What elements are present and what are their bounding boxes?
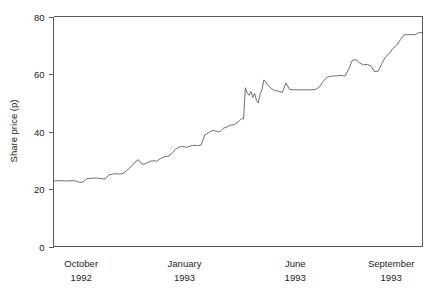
y-axis-tick-label: 80 xyxy=(34,12,45,23)
x-axis-tick-label-year: 1993 xyxy=(285,272,306,283)
y-axis-tick-label: 60 xyxy=(34,69,45,80)
x-axis-tick-label-year: 1992 xyxy=(71,272,92,283)
y-axis-title: Share price (p) xyxy=(8,100,19,163)
y-axis-tick-label: 40 xyxy=(34,127,45,138)
x-axis-tick-label-year: 1993 xyxy=(381,272,402,283)
series-group xyxy=(54,33,423,183)
y-axis-tick-label: 0 xyxy=(39,242,44,253)
x-axis-tick-label-month: September xyxy=(368,258,414,269)
x-axis-tick-label-month: June xyxy=(285,258,306,269)
x-axis-tick-label-year: 1993 xyxy=(174,272,195,283)
x-axis-tick-label-month: January xyxy=(168,258,202,269)
chart-canvas: 020406080 October1992January1993June1993… xyxy=(0,0,445,293)
chart-axes xyxy=(54,17,423,247)
share-price-line-chart: 020406080 October1992January1993June1993… xyxy=(0,0,445,293)
y-axis-ticks xyxy=(49,18,54,248)
y-axis-tick-label: 20 xyxy=(34,184,45,195)
axis-frame xyxy=(54,17,423,247)
x-axis-tick-labels: October1992January1993June1993September1… xyxy=(64,258,414,283)
x-axis-tick-label-month: October xyxy=(64,258,98,269)
y-axis-title-group: Share price (p) xyxy=(8,100,19,163)
y-axis-tick-labels: 020406080 xyxy=(34,12,45,253)
series-line-share-price xyxy=(54,33,423,183)
